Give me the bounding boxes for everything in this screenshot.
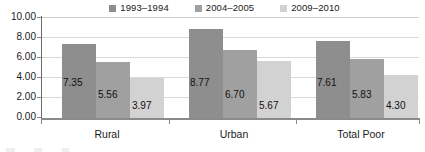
legend-item-2004-2005: 2004–2005 [195,3,254,13]
y-axis-label: 8.00 [2,32,36,42]
legend-swatch-icon [195,5,202,12]
legend-swatch-icon [109,5,116,12]
y-axis-label: 4.00 [2,72,36,82]
y-axis-labels: 10.00 8.00 6.00 4.00 2.00 0.00 [0,0,36,152]
x-axis-tick [41,119,42,124]
bar-total-poor-2009-2010 [384,75,418,118]
chart-legend: 1993–1994 2004–2005 2009–2010 [0,1,425,15]
y-axis-label: 6.00 [2,52,36,62]
bar-value-label: 5.83 [352,89,371,100]
x-axis-category-label-urban: Urban [189,128,279,140]
x-axis-category-label-rural: Rural [62,128,152,140]
bar-rural-2009-2010 [130,78,164,118]
scan-artifact [6,148,15,152]
scan-artifact [62,148,69,152]
x-axis-tick [296,119,297,124]
bar-value-label: 7.35 [63,77,82,88]
x-axis-tick [419,119,420,124]
bar-value-label: 5.56 [98,89,117,100]
y-axis-label: 2.00 [2,92,36,102]
bar-value-label: 3.97 [132,100,151,111]
scan-artifact [34,148,42,152]
legend-swatch-icon [280,5,287,12]
legend-label: 2004–2005 [206,3,254,13]
bar-value-label: 8.77 [190,77,209,88]
bars-layer: 7.35 5.56 3.97 8.77 6.70 5.67 7.61 5.83 … [41,17,419,118]
y-axis-label: 10.00 [2,12,36,22]
y-axis-label: 0.00 [2,112,36,122]
legend-label: 1993–1994 [120,3,168,13]
bar-value-label: 6.70 [225,89,244,100]
x-axis-line [41,118,420,120]
bar-value-label: 7.61 [317,77,336,88]
x-axis-category-label-total-poor: Total Poor [316,128,406,140]
bar-urban-2004-2005 [223,50,257,118]
legend-label: 2009–2010 [291,3,339,13]
legend-item-2009-2010: 2009–2010 [280,3,339,13]
bar-value-label: 4.30 [386,100,405,111]
bar-value-label: 5.67 [259,100,278,111]
x-axis-tick [169,119,170,124]
bar-urban-1993-1994 [189,29,223,118]
bar-chart: 1993–1994 2004–2005 2009–2010 10.00 8.00… [0,0,425,152]
legend-item-1993-1994: 1993–1994 [109,3,168,13]
